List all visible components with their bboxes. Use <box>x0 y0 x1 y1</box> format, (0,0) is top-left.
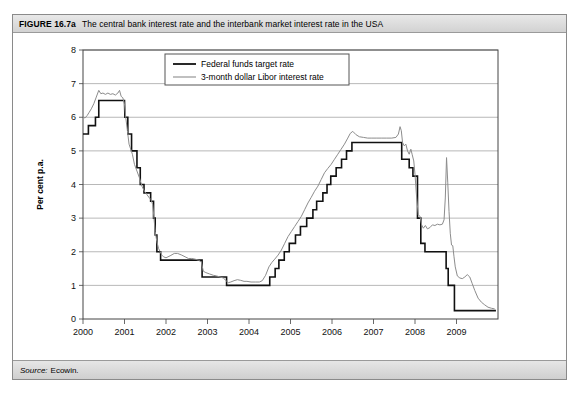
y-axis-tick-label: 0 <box>71 314 76 324</box>
y-axis-tick-label: 6 <box>71 112 76 122</box>
interest-rate-line-chart: 0123456782000200120022003200420052006200… <box>13 33 566 344</box>
figure-container: FIGURE 16.7a The central bank interest r… <box>12 14 567 380</box>
x-axis-tick-label: 2009 <box>446 327 466 337</box>
x-axis-tick-label: 2004 <box>239 327 259 337</box>
figure-caption: The central bank interest rate and the i… <box>82 19 383 29</box>
legend-label: 3-month dollar Libor interest rate <box>201 72 324 82</box>
figure-header: FIGURE 16.7a The central bank interest r… <box>13 15 566 33</box>
y-axis-tick-label: 7 <box>71 79 76 89</box>
figure-body: 0123456782000200120022003200420052006200… <box>13 33 566 344</box>
x-axis-tick-label: 2000 <box>73 327 93 337</box>
figure-source-band: Source: Ecowin. <box>13 360 566 379</box>
y-axis-tick-label: 8 <box>71 45 76 55</box>
y-axis-tick-label: 1 <box>71 281 76 291</box>
legend-label: Federal funds target rate <box>201 59 294 69</box>
y-axis-title: Per cent p.a. <box>35 159 45 210</box>
figure-number: FIGURE 16.7a <box>19 19 76 29</box>
y-axis-tick-label: 3 <box>71 213 76 223</box>
x-axis-tick-label: 2008 <box>405 327 425 337</box>
source-value: Ecowin. <box>51 366 79 375</box>
source-label: Source: <box>20 366 48 375</box>
y-axis-tick-label: 2 <box>71 247 76 257</box>
x-axis-tick-label: 2005 <box>280 327 300 337</box>
x-axis-tick-label: 2007 <box>363 327 383 337</box>
y-axis-tick-label: 4 <box>71 180 76 190</box>
x-axis-tick-label: 2002 <box>156 327 176 337</box>
x-axis-tick-label: 2003 <box>197 327 217 337</box>
x-axis-tick-label: 2006 <box>322 327 342 337</box>
x-axis-tick-label: 2001 <box>114 327 134 337</box>
y-axis-tick-label: 5 <box>71 146 76 156</box>
